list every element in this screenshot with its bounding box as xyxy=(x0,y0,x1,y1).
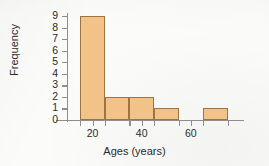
x-tick-mark-major xyxy=(93,121,94,126)
histogram-bar xyxy=(105,97,130,120)
y-tick-label: 8 xyxy=(36,22,58,33)
y-tick-label: 9 xyxy=(36,10,58,21)
histogram-figure: Frequency 0123456789 204060 Ages (years) xyxy=(0,0,269,166)
x-axis-title-text: Ages (years) xyxy=(0,145,269,157)
y-tick-mark xyxy=(62,39,67,40)
y-tick-mark xyxy=(62,85,67,86)
y-tick-label: 6 xyxy=(36,45,58,56)
x-axis-line xyxy=(56,120,244,121)
y-axis-title-text: Frequency xyxy=(8,10,20,90)
x-tick-mark xyxy=(129,121,130,126)
x-tick-mark xyxy=(80,121,81,126)
x-tick-mark xyxy=(154,121,155,126)
x-tick-label: 40 xyxy=(128,128,156,139)
y-tick-label: 5 xyxy=(36,56,58,67)
x-tick-label: 60 xyxy=(177,128,205,139)
y-tick-mark xyxy=(62,62,67,63)
x-tick-mark xyxy=(228,121,229,126)
histogram-bar xyxy=(80,16,105,120)
y-tick-label: 1 xyxy=(36,102,58,113)
y-tick-mark xyxy=(62,97,67,98)
plot-area xyxy=(68,16,240,120)
y-tick-mark xyxy=(62,74,67,75)
x-tick-mark xyxy=(179,121,180,126)
y-tick-label: 4 xyxy=(36,68,58,79)
histogram-bar xyxy=(154,108,179,120)
y-tick-mark xyxy=(62,108,67,109)
y-tick-label: 7 xyxy=(36,33,58,44)
x-tick-mark-major xyxy=(191,121,192,126)
x-tick-mark-major xyxy=(142,121,143,126)
x-tick-mark xyxy=(203,121,204,126)
y-tick-mark xyxy=(62,51,67,52)
y-tick-mark xyxy=(62,120,67,121)
y-tick-mark xyxy=(62,28,67,29)
x-tick-mark xyxy=(105,121,106,126)
histogram-bar xyxy=(129,97,154,120)
y-tick-mark xyxy=(62,16,67,17)
x-tick-label: 20 xyxy=(79,128,107,139)
y-tick-label: 2 xyxy=(36,91,58,102)
histogram-bar xyxy=(203,108,228,120)
y-tick-label: 0 xyxy=(36,114,58,125)
y-tick-label: 3 xyxy=(36,79,58,90)
